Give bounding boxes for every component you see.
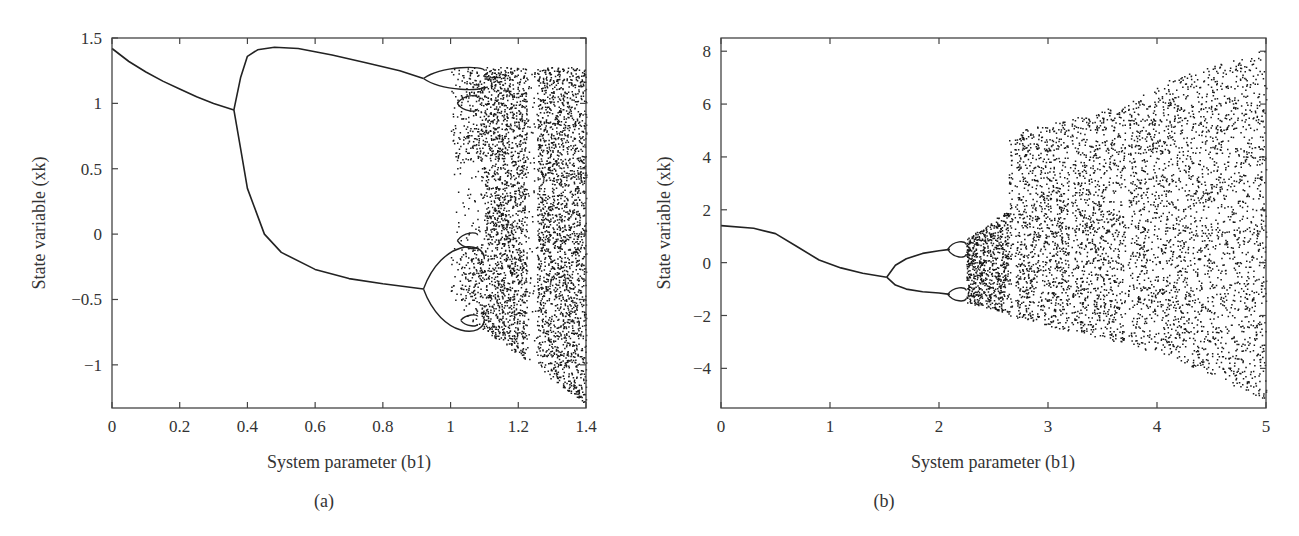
y-tick-label: 0.5 (81, 160, 102, 179)
y-tick-label: 0 (94, 225, 103, 244)
chart-panel-b: 012345 86420−2−4 System parameter (b1) S… (650, 0, 1299, 536)
x-tick-label: 2 (935, 417, 944, 436)
y-tick-label: −2 (693, 307, 711, 326)
x-tick-label: 3 (1044, 417, 1053, 436)
chaotic-scatter-region (966, 51, 1267, 399)
y-tick-label: 2 (703, 201, 712, 220)
branch-line (234, 110, 424, 289)
x-tick-label: 1.4 (575, 417, 597, 436)
x-tick-label: 0.2 (169, 417, 190, 436)
y-tick-label: 6 (703, 95, 712, 114)
branch-line (721, 226, 887, 278)
x-tick-label: 0.6 (305, 417, 326, 436)
x-axis-ticks: 012345 (717, 38, 1271, 436)
panel-label: (a) (314, 491, 334, 512)
x-tick-label: 4 (1153, 417, 1162, 436)
x-tick-label: 0.4 (237, 417, 259, 436)
y-tick-label: −4 (693, 359, 712, 378)
y-tick-label: −0.5 (71, 290, 102, 309)
x-tick-label: 1 (446, 417, 455, 436)
y-tick-label: 4 (703, 148, 712, 167)
x-axis-title: System parameter (b1) (267, 452, 431, 473)
chart-panel-a: 00.20.40.60.811.21.4 1.510.50−0.5−1 Syst… (0, 0, 650, 536)
x-axis-ticks: 00.20.40.60.811.21.4 (108, 38, 597, 436)
y-tick-label: −1 (84, 356, 102, 375)
periodic-branches (112, 47, 484, 331)
x-tick-label: 1.2 (508, 417, 529, 436)
x-tick-label: 1 (826, 417, 835, 436)
x-axis-title: System parameter (b1) (911, 452, 1075, 473)
periodic-branches (721, 226, 966, 301)
chaotic-scatter-region (451, 67, 588, 403)
x-tick-label: 5 (1262, 417, 1271, 436)
y-axis-title: State variable (xk) (654, 157, 675, 290)
x-tick-label: 0.8 (372, 417, 393, 436)
y-tick-label: 0 (703, 254, 712, 273)
bifurcation-plot-a: 00.20.40.60.811.21.4 1.510.50−0.5−1 Syst… (0, 0, 650, 536)
plot-frame (721, 38, 1266, 408)
y-axis-title: State variable (xk) (29, 157, 50, 290)
y-tick-label: 1 (94, 94, 103, 113)
y-axis-ticks: 86420−2−4 (693, 42, 1266, 378)
x-tick-label: 0 (717, 417, 726, 436)
x-tick-label: 0 (108, 417, 117, 436)
panel-label: (b) (874, 491, 895, 512)
branch-line (887, 249, 950, 277)
branch-line (234, 47, 424, 110)
branch-line (112, 49, 234, 110)
y-tick-label: 8 (703, 42, 712, 61)
bifurcation-plot-b: 012345 86420−2−4 System parameter (b1) S… (650, 0, 1299, 536)
branch-line (887, 277, 950, 294)
y-tick-label: 1.5 (81, 29, 102, 48)
